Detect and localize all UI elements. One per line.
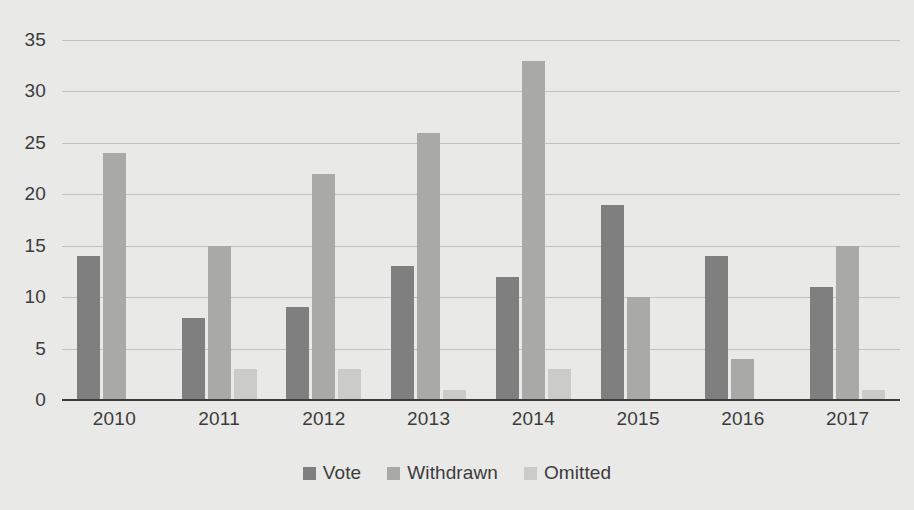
x-axis-tick-label: 2011 (198, 408, 240, 430)
bar-omitted-2014[interactable] (548, 369, 571, 400)
legend-label: Withdrawn (407, 462, 498, 484)
y-axis-tick-label: 0 (35, 389, 46, 411)
x-axis-tick-label: 2017 (826, 408, 869, 430)
bar-chart: 05101520253035 2010201120122013201420152… (0, 0, 914, 510)
bar-withdrawn-2013[interactable] (417, 133, 440, 400)
bar-vote-2013[interactable] (391, 266, 414, 400)
legend-label: Omitted (544, 462, 611, 484)
x-axis-tick-label: 2012 (302, 408, 345, 430)
bar-vote-2010[interactable] (77, 256, 100, 400)
bar-group (391, 40, 466, 400)
x-axis-tick-label: 2014 (512, 408, 555, 430)
legend-item-omitted[interactable]: Omitted (524, 462, 611, 484)
y-axis-tick-label: 20 (24, 183, 46, 205)
plot-area (62, 40, 900, 400)
y-axis-tick-labels: 05101520253035 (0, 40, 56, 400)
y-axis-tick-label: 5 (35, 338, 46, 360)
bars-layer (62, 40, 900, 400)
legend-label: Vote (323, 462, 361, 484)
y-axis-tick-label: 25 (24, 132, 46, 154)
y-axis-tick-label: 10 (24, 286, 46, 308)
bar-vote-2012[interactable] (286, 307, 309, 400)
x-axis-tick-label: 2013 (407, 408, 450, 430)
bar-withdrawn-2014[interactable] (522, 61, 545, 400)
bar-vote-2011[interactable] (182, 318, 205, 400)
y-axis-tick-label: 15 (24, 235, 46, 257)
bar-withdrawn-2012[interactable] (312, 174, 335, 400)
bar-withdrawn-2017[interactable] (836, 246, 859, 400)
bar-group (496, 40, 571, 400)
x-axis-line (62, 399, 900, 401)
bar-omitted-2011[interactable] (234, 369, 257, 400)
bar-withdrawn-2015[interactable] (627, 297, 650, 400)
bar-group (705, 40, 780, 400)
bar-withdrawn-2010[interactable] (103, 153, 126, 400)
bar-vote-2014[interactable] (496, 277, 519, 400)
legend-item-vote[interactable]: Vote (303, 462, 361, 484)
bar-vote-2016[interactable] (705, 256, 728, 400)
bar-group (182, 40, 257, 400)
bar-group (286, 40, 361, 400)
bar-withdrawn-2016[interactable] (731, 359, 754, 400)
x-axis-tick-label: 2016 (721, 408, 764, 430)
bar-group (601, 40, 676, 400)
bar-vote-2015[interactable] (601, 205, 624, 400)
y-axis-tick-label: 35 (24, 29, 46, 51)
bar-group (77, 40, 152, 400)
bar-withdrawn-2011[interactable] (208, 246, 231, 400)
legend-swatch-icon (387, 467, 400, 480)
x-axis-tick-label: 2010 (93, 408, 136, 430)
bar-omitted-2012[interactable] (338, 369, 361, 400)
chart-legend: VoteWithdrawnOmitted (0, 462, 914, 484)
legend-swatch-icon (524, 467, 537, 480)
y-axis-tick-label: 30 (24, 80, 46, 102)
bar-vote-2017[interactable] (810, 287, 833, 400)
legend-swatch-icon (303, 467, 316, 480)
x-axis-tick-labels: 20102011201220132014201520162017 (62, 408, 900, 442)
bar-group (810, 40, 885, 400)
x-axis-tick-label: 2015 (617, 408, 660, 430)
legend-item-withdrawn[interactable]: Withdrawn (387, 462, 498, 484)
